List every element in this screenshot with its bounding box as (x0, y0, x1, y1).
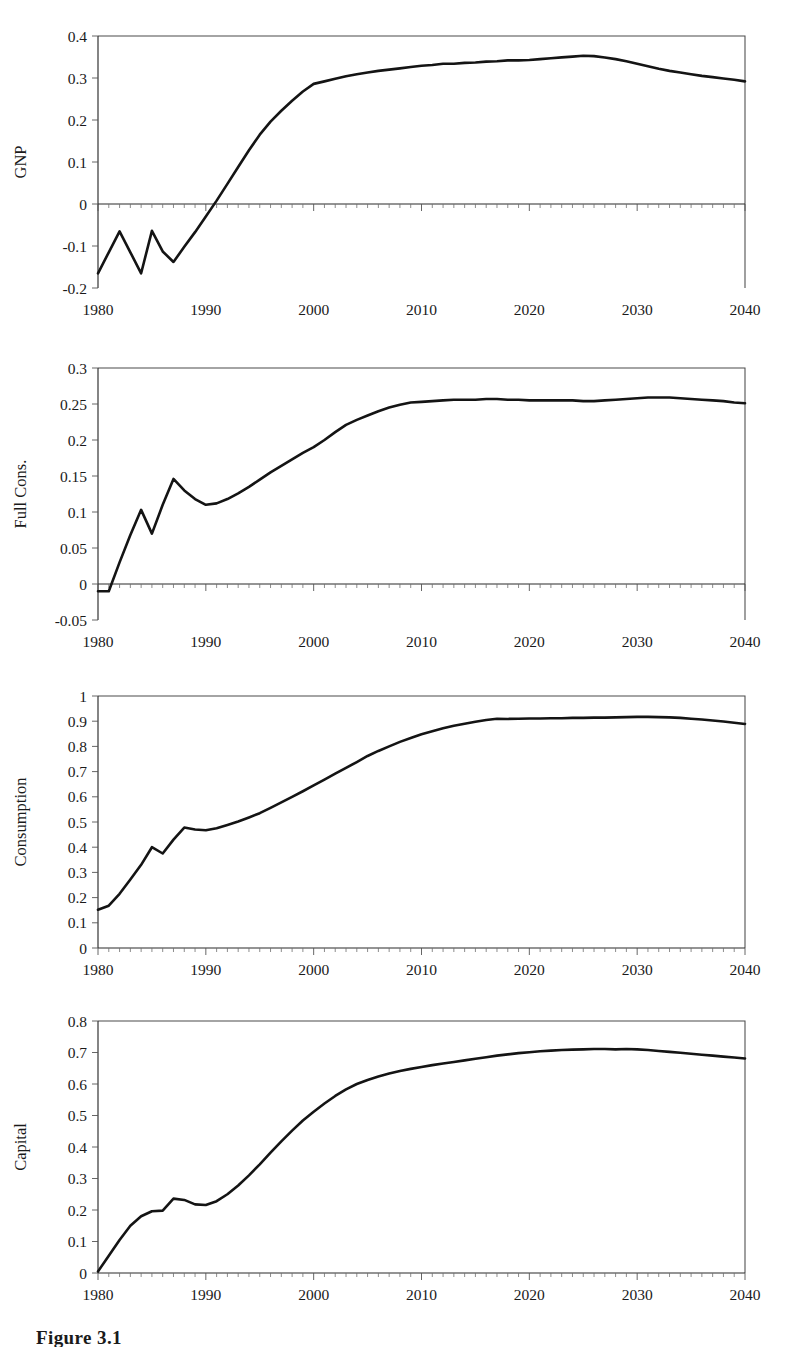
y-tick-label: 1 (79, 688, 87, 705)
y-tick-label: 0.7 (68, 763, 88, 780)
chart-panel-gnp: -0.2-0.100.10.20.30.41980199020002010202… (0, 20, 788, 325)
y-tick-label: 0.5 (68, 1107, 88, 1124)
x-tick-label: 2030 (622, 633, 653, 650)
y-tick-label: 0.4 (68, 839, 88, 856)
y-tick-label: 0.6 (68, 788, 88, 805)
x-tick-label: 2040 (730, 301, 761, 318)
y-tick-label: -0.05 (55, 612, 88, 629)
y-tick-label: 0.2 (68, 112, 87, 129)
x-tick-label: 2030 (622, 1286, 653, 1303)
x-tick-label: 2040 (730, 961, 761, 978)
y-axis-title: Capital (11, 1123, 30, 1171)
y-tick-label: 0.25 (60, 396, 87, 413)
x-tick-label: 2030 (622, 961, 653, 978)
x-tick-label: 2000 (298, 961, 329, 978)
x-tick-label: 2010 (406, 301, 437, 318)
plot-frame (98, 1021, 745, 1273)
y-tick-label: 0.4 (68, 28, 88, 45)
y-tick-label: 0.3 (68, 360, 88, 377)
x-tick-label: 1990 (190, 961, 221, 978)
y-tick-label: 0.4 (68, 1139, 88, 1156)
y-tick-label: 0.3 (68, 70, 88, 87)
figure-caption: Figure 3.1 (36, 1327, 122, 1347)
data-series-line (98, 398, 745, 592)
y-tick-label: 0 (79, 196, 87, 213)
chart-panel-full-cons: -0.0500.050.10.150.20.250.31980199020002… (0, 352, 788, 657)
x-tick-label: 1980 (83, 1286, 114, 1303)
y-tick-label: 0 (79, 1265, 87, 1282)
y-tick-label: 0.8 (68, 738, 88, 755)
x-tick-label: 1980 (83, 633, 114, 650)
data-series-line (98, 56, 745, 274)
x-tick-label: 2010 (406, 633, 437, 650)
data-series-line (98, 1049, 745, 1271)
chart-panel-consumption: 00.10.20.30.40.50.60.70.80.9119801990200… (0, 680, 788, 985)
chart-consumption: 00.10.20.30.40.50.60.70.80.9119801990200… (0, 680, 788, 985)
y-axis-title: Full Cons. (11, 460, 30, 529)
y-tick-label: 0.2 (68, 1202, 87, 1219)
y-tick-label: 0.15 (60, 468, 87, 485)
y-axis-title: Consumption (11, 778, 30, 867)
x-tick-label: 2040 (730, 633, 761, 650)
y-tick-label: 0.3 (68, 864, 88, 881)
x-tick-label: 2000 (298, 1286, 329, 1303)
y-tick-label: 0.9 (68, 713, 88, 730)
x-tick-label: 2010 (406, 1286, 437, 1303)
y-tick-label: 0.6 (68, 1076, 88, 1093)
plot-frame (98, 36, 745, 288)
y-tick-label: 0.2 (68, 432, 87, 449)
x-tick-label: 1990 (190, 633, 221, 650)
chart-capital: 00.10.20.30.40.50.60.70.8198019902000201… (0, 1005, 788, 1310)
x-tick-label: 1980 (83, 961, 114, 978)
data-series-line (98, 717, 745, 910)
y-tick-label: 0.1 (68, 504, 87, 521)
x-tick-label: 2000 (298, 301, 329, 318)
figure-sheet: -0.2-0.100.10.20.30.41980199020002010202… (0, 0, 788, 1347)
x-tick-label: 2020 (514, 301, 545, 318)
y-tick-label: -0.2 (62, 280, 87, 297)
x-tick-label: 1980 (83, 301, 114, 318)
x-tick-label: 1990 (190, 301, 221, 318)
y-tick-label: 0.5 (68, 814, 88, 831)
x-tick-label: 2020 (514, 1286, 545, 1303)
y-tick-label: 0.1 (68, 154, 87, 171)
y-tick-label: 0.2 (68, 889, 87, 906)
y-tick-label: 0.7 (68, 1044, 88, 1061)
chart-panel-capital: 00.10.20.30.40.50.60.70.8198019902000201… (0, 1005, 788, 1310)
x-tick-label: 1990 (190, 1286, 221, 1303)
y-tick-label: 0 (79, 940, 87, 957)
x-tick-label: 2000 (298, 633, 329, 650)
y-tick-label: 0.8 (68, 1013, 88, 1030)
y-tick-label: 0.1 (68, 1233, 87, 1250)
x-tick-label: 2020 (514, 633, 545, 650)
y-tick-label: -0.1 (62, 238, 87, 255)
y-tick-label: 0.05 (60, 540, 87, 557)
plot-frame (98, 368, 745, 620)
y-tick-label: 0.1 (68, 914, 87, 931)
y-axis-title: GNP (11, 145, 30, 178)
x-tick-label: 2040 (730, 1286, 761, 1303)
x-tick-label: 2010 (406, 961, 437, 978)
y-tick-label: 0.3 (68, 1170, 88, 1187)
x-tick-label: 2030 (622, 301, 653, 318)
x-tick-label: 2020 (514, 961, 545, 978)
chart-full-cons: -0.0500.050.10.150.20.250.31980199020002… (0, 352, 788, 657)
y-tick-label: 0 (79, 576, 87, 593)
chart-gnp: -0.2-0.100.10.20.30.41980199020002010202… (0, 20, 788, 325)
